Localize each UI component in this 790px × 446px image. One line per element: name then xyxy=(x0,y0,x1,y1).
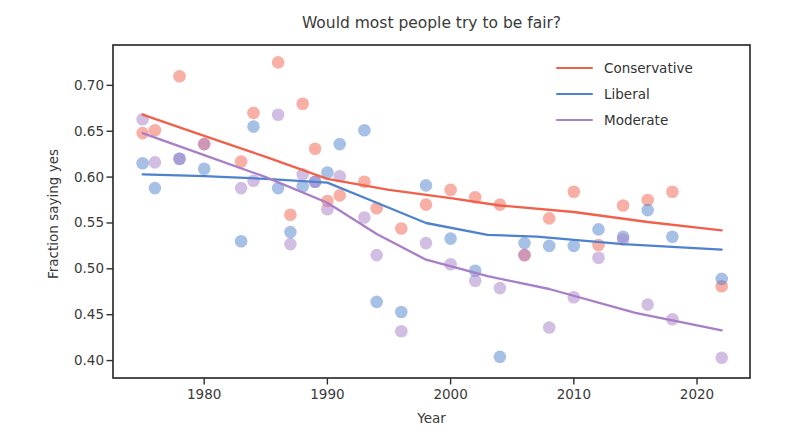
scatter-point-moderate xyxy=(173,153,186,166)
scatter-point-conservative xyxy=(173,70,186,83)
legend-label: Moderate xyxy=(604,110,668,130)
y-tick-label: 0.50 xyxy=(74,260,104,276)
scatter-point-conservative xyxy=(617,199,630,212)
scatter-point-liberal xyxy=(568,240,581,253)
scatter-point-conservative xyxy=(395,222,408,235)
scatter-point-liberal xyxy=(198,163,211,176)
scatter-point-conservative xyxy=(247,107,260,120)
scatter-point-moderate xyxy=(198,138,211,151)
x-tick-label: 2010 xyxy=(557,386,591,402)
scatter-point-moderate xyxy=(272,108,285,121)
y-tick-label: 0.60 xyxy=(74,169,104,185)
scatter-point-conservative xyxy=(272,56,285,69)
y-tick-label: 0.55 xyxy=(74,214,104,230)
scatter-point-conservative xyxy=(444,184,457,197)
scatter-point-moderate xyxy=(715,352,728,365)
scatter-point-liberal xyxy=(247,120,260,133)
scatter-point-liberal xyxy=(518,237,531,250)
scatter-point-moderate xyxy=(518,249,531,262)
scatter-point-conservative xyxy=(420,198,433,211)
scatter-point-conservative xyxy=(568,186,581,199)
scatter-point-moderate xyxy=(469,275,482,288)
x-tick-label: 1980 xyxy=(187,386,221,402)
scatter-point-liberal xyxy=(444,232,457,245)
scatter-point-moderate xyxy=(641,298,654,311)
scatter-point-liberal xyxy=(370,296,383,309)
scatter-point-liberal xyxy=(149,182,162,195)
scatter-point-moderate xyxy=(149,156,162,169)
x-tick-label: 1990 xyxy=(310,386,344,402)
scatter-point-moderate xyxy=(494,282,507,295)
legend-label: Liberal xyxy=(604,84,650,104)
legend-item-moderate: Moderate xyxy=(556,110,693,130)
scatter-point-conservative xyxy=(296,97,309,110)
scatter-point-moderate xyxy=(370,249,383,262)
scatter-point-liberal xyxy=(543,240,556,253)
scatter-point-moderate xyxy=(420,237,433,250)
x-tick-label: 2020 xyxy=(680,386,714,402)
scatter-point-liberal xyxy=(592,223,605,236)
legend-item-liberal: Liberal xyxy=(556,84,693,104)
legend-swatch-moderate xyxy=(556,119,593,122)
scatter-point-moderate xyxy=(592,251,605,264)
scatter-point-conservative xyxy=(666,186,679,199)
scatter-point-liberal xyxy=(666,230,679,243)
scatter-point-liberal xyxy=(420,179,433,192)
scatter-point-moderate xyxy=(284,238,297,251)
scatter-point-liberal xyxy=(235,235,248,248)
scatter-point-liberal xyxy=(358,124,371,137)
scatter-point-moderate xyxy=(358,211,371,224)
legend-swatch-liberal xyxy=(556,93,593,96)
scatter-point-conservative xyxy=(284,208,297,221)
scatter-point-conservative xyxy=(543,212,556,225)
x-tick-label: 2000 xyxy=(433,386,467,402)
scatter-point-moderate xyxy=(235,182,248,195)
scatter-point-liberal xyxy=(395,306,408,319)
y-axis-label: Fraction saying yes xyxy=(45,149,61,279)
legend: ConservativeLiberalModerate xyxy=(556,58,693,130)
scatter-point-liberal xyxy=(494,351,507,364)
scatter-point-moderate xyxy=(395,325,408,338)
legend-item-conservative: Conservative xyxy=(556,58,693,78)
x-axis-label: Year xyxy=(113,410,750,426)
y-tick-label: 0.45 xyxy=(74,306,104,322)
scatter-point-liberal xyxy=(641,204,654,217)
figure: Would most people try to be fair? 0.400.… xyxy=(0,0,790,446)
scatter-point-moderate xyxy=(247,175,260,188)
scatter-point-liberal xyxy=(284,226,297,239)
scatter-point-moderate xyxy=(543,321,556,334)
y-tick-label: 0.70 xyxy=(74,77,104,93)
y-tick-label: 0.65 xyxy=(74,123,104,139)
y-tick-label: 0.40 xyxy=(74,352,104,368)
scatter-point-conservative xyxy=(309,142,322,155)
scatter-point-liberal xyxy=(333,138,346,151)
scatter-point-liberal xyxy=(715,273,728,286)
legend-label: Conservative xyxy=(604,58,693,78)
legend-swatch-conservative xyxy=(556,67,593,70)
scatter-point-liberal xyxy=(136,157,149,170)
scatter-point-conservative xyxy=(333,189,346,202)
